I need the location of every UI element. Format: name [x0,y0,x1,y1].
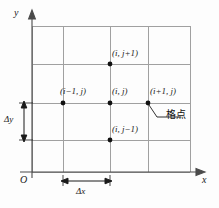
grid-point-east [146,101,151,106]
grid-point-annotation: 格点 [166,106,186,121]
delta-x-arrowhead-right [105,178,112,184]
delta-x-arrowhead-left [61,178,68,184]
node-label-north: (i, j+1) [112,48,138,58]
node-label-east: (i+1, j) [150,86,176,96]
node-label-center: (i, j) [112,86,128,96]
delta-x-label: Δx [76,186,85,196]
grid-point-west [61,101,66,106]
grid-point-south [108,138,113,143]
grid-lines [32,26,190,172]
y-axis-arrowhead [29,10,36,19]
diagram-canvas [0,0,219,208]
grid-point-center [108,101,113,106]
y-axis-label: y [14,7,18,18]
grid-point-diagram: y x O Δy Δx (i, j+1) (i−1, j) (i, j) (i+… [0,0,219,208]
grid-point-north [108,62,113,67]
delta-x-dimension [61,175,112,186]
node-label-west: (i−1, j) [60,86,86,96]
origin-label: O [20,174,27,185]
delta-y-label: Δy [4,114,13,124]
delta-y-dimension [19,101,33,142]
delta-y-arrowhead-top [21,101,27,108]
delta-y-arrowhead-bottom [21,135,27,142]
node-label-south: (i, j−1) [112,124,138,134]
x-axis-label: x [202,174,206,185]
